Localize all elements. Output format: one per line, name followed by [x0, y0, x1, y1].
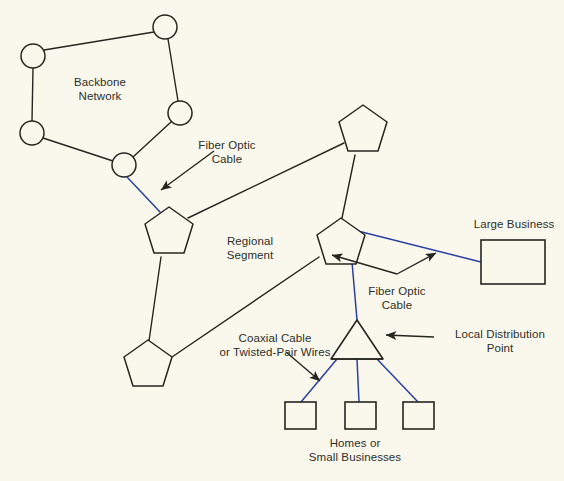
- home-box-1: [285, 402, 316, 429]
- backbone-link-5: [133, 122, 171, 157]
- regional-switch-left: [145, 207, 193, 253]
- fiber-ldp-to-home-2: [357, 359, 359, 402]
- regional-link-left-down: [149, 257, 161, 341]
- large-business-box: [481, 240, 545, 284]
- backbone-node-top: [153, 15, 177, 39]
- arrow-fiber-optic-right-up-head: [397, 253, 436, 274]
- backbone-link-1: [44, 32, 154, 50]
- regional-switch-bottom-left: [124, 340, 172, 386]
- backbone-node-lower-left: [20, 121, 44, 145]
- label-backbone-network: Backbone Network: [60, 76, 140, 103]
- home-box-3: [403, 402, 434, 429]
- network-diagram: Backbone Network Fiber Optic Cable Regio…: [0, 0, 564, 481]
- label-large-business: Large Business: [466, 218, 562, 232]
- backbone-node-upper-left: [21, 44, 45, 68]
- fiber-backbone-to-regional: [127, 177, 160, 212]
- label-local-distribution-point: Local Distribution Point: [440, 328, 560, 355]
- backbone-link-4: [43, 138, 113, 161]
- label-fiber-optic-cable-right: Fiber Optic Cable: [358, 285, 436, 312]
- backbone-node-right: [168, 101, 192, 125]
- backbone-link-3: [32, 68, 33, 121]
- regional-link-top-to-center: [342, 155, 355, 218]
- backbone-link-2: [168, 39, 178, 101]
- label-fiber-optic-cable-top: Fiber Optic Cable: [188, 139, 266, 166]
- home-boxes: [285, 402, 434, 429]
- arrow-local-distribution-point: [386, 335, 434, 337]
- label-regional-segment: Regional Segment: [210, 235, 290, 262]
- label-homes-or-small-businesses: Homes or Small Businesses: [295, 437, 415, 464]
- fiber-regional-to-ldp: [352, 262, 357, 320]
- home-box-2: [345, 402, 376, 429]
- backbone-node-bottom: [112, 153, 136, 177]
- label-coaxial-cable: Coaxial Cable or Twisted-Pair Wires: [210, 332, 340, 359]
- fiber-regional-to-large-business: [342, 227, 481, 262]
- regional-switch-top: [339, 105, 387, 151]
- fiber-ldp-to-home-3: [377, 359, 418, 402]
